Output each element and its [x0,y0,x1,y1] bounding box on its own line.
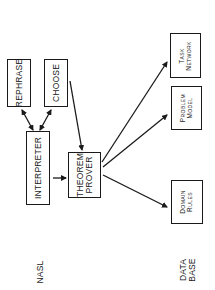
node-problem-model-label: Problem Model [180,94,194,122]
row-label-nasl: NASL [36,260,45,283]
node-theorem-prover-label: THEOREM PROVER [76,153,94,197]
node-rephrase-label: REPHRASE [15,59,24,107]
edge-interpreter-choose [40,110,51,130]
row-label-database: DATA BASE [179,258,197,281]
node-task-network-line2: Network [186,41,193,70]
node-problem-model: Problem Model [171,86,202,130]
node-theorem-prover-line2: PROVER [85,153,94,197]
node-theorem-prover: THEOREM PROVER [68,152,101,198]
node-domain-rules-line2: Rules [187,190,194,213]
row-label-nasl-container: NASL [30,260,50,284]
node-domain-rules: Domain Rules [171,180,203,224]
node-task-network-label: Task Network [179,41,193,70]
node-problem-model-line2: Model [187,94,194,122]
node-choose-label: CHOOSE [52,64,61,102]
node-interpreter-label: INTERPRETER [34,137,43,199]
node-domain-rules-label: Domain Rules [180,190,194,213]
edge-theorem-prover-task-network [102,62,167,162]
node-task-network: Task Network [170,33,201,78]
edge-interpreter-rephrase [22,110,33,130]
edge-theorem-prover-domain-rules [103,175,167,207]
row-label-database-container: DATA BASE [176,256,200,284]
node-interpreter: INTERPRETER [26,131,50,205]
row-label-database-line2: BASE [188,258,197,281]
node-choose: CHOOSE [44,59,68,107]
edge-theorem-prover-problem-model [103,115,167,167]
node-rephrase: REPHRASE [7,59,31,107]
edge-choose-theorem-prover [70,81,82,150]
